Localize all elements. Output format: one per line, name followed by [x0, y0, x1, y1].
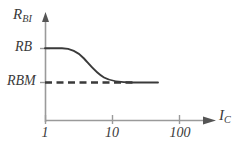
y-axis-label-base: R: [13, 6, 22, 22]
x-axis-label: IC: [219, 108, 231, 125]
x-axis-label-subscript: C: [224, 114, 231, 125]
x-tick-label-1: 1: [37, 126, 53, 140]
y-axis-label-subscript: BI: [22, 13, 32, 24]
y-axis-label: RBI: [13, 7, 32, 24]
chart-figure: RBI IC RB RBM 1 10 100: [0, 0, 242, 147]
x-tick-label-100: 100: [165, 126, 195, 140]
x-tick-label-10: 10: [101, 126, 123, 140]
y-level-label-rb: RB: [15, 40, 32, 54]
y-axis-arrow-icon: [42, 12, 49, 22]
y-level-label-rbm: RBM: [7, 74, 36, 88]
rbi-curve: [45, 48, 158, 82]
x-axis-arrow-icon: [203, 117, 216, 125]
chart-plot-area: [0, 0, 242, 147]
